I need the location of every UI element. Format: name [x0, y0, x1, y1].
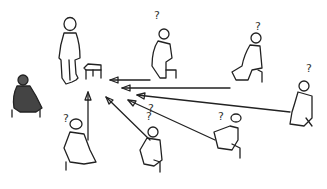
- shaded-seated-figure: [12, 75, 42, 117]
- question-mark: ?: [154, 9, 160, 22]
- seated-figure-7: ?: [148, 102, 154, 115]
- sketch-svg: ? ? ? ? ? ? ?: [0, 0, 327, 189]
- question-mark: ?: [255, 20, 261, 33]
- sketch-scene: ? ? ? ? ? ? ?: [0, 0, 327, 189]
- question-mark: ?: [306, 62, 312, 75]
- question-mark: ?: [148, 102, 154, 115]
- standing-figure: [59, 18, 80, 85]
- seated-figure-5: ?: [140, 110, 162, 172]
- seated-figure-4: ?: [214, 110, 241, 158]
- seated-figure-6: ?: [63, 112, 96, 170]
- seated-figure-2: ?: [232, 20, 262, 82]
- seated-figure-1: ?: [152, 9, 176, 78]
- question-mark: ?: [218, 110, 224, 123]
- seated-figure-3: ?: [290, 62, 312, 126]
- question-mark: ?: [63, 112, 69, 125]
- arrows: [85, 77, 290, 140]
- stool: [84, 64, 101, 79]
